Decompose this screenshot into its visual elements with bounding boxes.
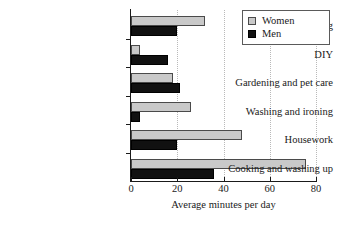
category-label-3: Washing and ironing xyxy=(211,106,337,117)
bar-men-2 xyxy=(131,83,180,93)
legend-label-men: Men xyxy=(262,28,281,39)
x-tick-label: 80 xyxy=(296,183,336,194)
legend-item-men: Men xyxy=(248,27,324,40)
bar-women-0 xyxy=(131,16,205,26)
category-label-2: Gardening and pet care xyxy=(211,77,337,88)
men-swatch-icon xyxy=(248,30,256,38)
legend-label-women: Women xyxy=(262,15,294,26)
y-tick xyxy=(126,67,131,68)
x-tick xyxy=(177,177,178,182)
y-tick xyxy=(126,96,131,97)
x-tick-label: 20 xyxy=(157,183,197,194)
x-tick xyxy=(224,177,225,182)
bar-men-5 xyxy=(131,169,214,179)
y-tick xyxy=(126,153,131,154)
bar-chart: 020406080 ShoppingDIYGardening and pet c… xyxy=(0,0,337,230)
bar-men-0 xyxy=(131,26,177,36)
bar-women-3 xyxy=(131,102,191,112)
gridline xyxy=(177,10,178,181)
x-tick xyxy=(131,177,132,182)
category-label-4: Housework xyxy=(211,134,337,145)
x-tick xyxy=(316,177,317,182)
legend-item-women: Women xyxy=(248,14,324,27)
category-label-5: Cooking and washing up xyxy=(211,163,337,174)
x-tick-label: 40 xyxy=(204,183,244,194)
bar-men-1 xyxy=(131,55,168,65)
women-swatch-icon xyxy=(248,17,256,25)
category-label-1: DIY xyxy=(211,49,337,60)
bar-men-3 xyxy=(131,112,140,122)
legend: Women Men xyxy=(242,10,330,45)
y-tick xyxy=(126,39,131,40)
x-tick-label: 0 xyxy=(111,183,151,194)
bar-men-4 xyxy=(131,140,177,150)
y-tick xyxy=(126,124,131,125)
bar-women-1 xyxy=(131,45,140,55)
x-tick xyxy=(270,177,271,182)
x-tick-label: 60 xyxy=(250,183,290,194)
bar-women-2 xyxy=(131,73,173,83)
x-axis-label: Average minutes per day xyxy=(131,199,316,210)
gridline xyxy=(224,10,225,181)
